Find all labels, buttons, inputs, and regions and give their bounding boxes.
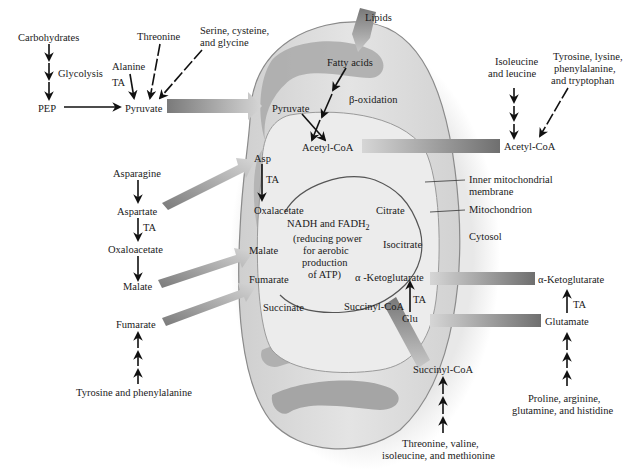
label-isocitrate: Isocitrate: [383, 239, 422, 250]
label-citrate: Citrate: [376, 205, 405, 216]
pyruvate-transport-arrow: [167, 92, 262, 120]
label-asp: Asp: [254, 153, 271, 164]
label-acetyl-coa-matrix: Acetyl-CoA: [302, 142, 354, 153]
label-cytosol: Cytosol: [469, 231, 502, 242]
label-succinyl-coa-matrix: Succinyl-CoA: [344, 301, 404, 312]
label-threonine: Threonine: [137, 31, 180, 42]
label-for-aerobic: for aerobic: [303, 245, 349, 256]
label-glutamate: Glutamate: [545, 316, 589, 327]
label-oxaloacetate: Oxaloacetate: [108, 244, 163, 255]
label-threonine-valine-1: Threonine, valine,: [402, 438, 479, 449]
serine-arrow: [160, 50, 202, 98]
label-glycolysis: Glycolysis: [58, 68, 103, 79]
metabolism-diagram: Carbohydrates Glycolysis PEP Alanine TA …: [0, 0, 637, 474]
alpha-ketoglutarate-transport-bar: [430, 272, 535, 285]
threonine-arrow: [150, 44, 160, 98]
label-pyruvate-cytosol: Pyruvate: [125, 103, 163, 114]
label-inner-membrane-1: Inner mitochondrial: [469, 174, 553, 185]
label-aspartate: Aspartate: [117, 206, 158, 217]
label-inner-membrane-2: membrane: [469, 186, 514, 197]
label-of-atp: of ATP): [308, 269, 341, 281]
label-tyrosine-1: Tyrosine, lysine,: [553, 51, 623, 62]
label-alpha-kg-matrix: α -Ketoglutarate: [355, 272, 424, 283]
label-ta-asp: TA: [266, 174, 280, 185]
label-proline-2: glutamine, and histidine: [512, 405, 614, 416]
label-serine-2: and glycine: [200, 37, 249, 48]
glutamate-transport-bar: [430, 314, 541, 327]
label-tyrosine-phenylalanine: Tyrosine and phenylalanine: [76, 387, 192, 398]
label-lipids: Lipids: [365, 12, 392, 23]
label-oxalacetate: Oxalacetate: [254, 205, 304, 216]
label-isoleucine-1: Isoleucine: [495, 56, 538, 67]
label-fatty-acids: Fatty acids: [327, 57, 373, 68]
label-tyrosine-3: and tryptophan: [551, 75, 615, 86]
label-asparagine: Asparagine: [113, 168, 161, 179]
label-mitochondrion: Mitochondrion: [469, 204, 533, 215]
tyrosine-arrow: [540, 88, 568, 136]
label-ta-glu: TA: [413, 294, 427, 305]
label-ta-glutamate: TA: [573, 299, 587, 310]
label-ta-alanine: TA: [112, 77, 126, 88]
label-threonine-valine-2: isoleucine, and methionine: [382, 450, 495, 461]
label-pyruvate-matrix: Pyruvate: [272, 103, 310, 114]
label-carbohydrates: Carbohydrates: [18, 32, 79, 43]
label-succinate: Succinate: [263, 302, 304, 313]
label-ta-aspartate: TA: [143, 222, 157, 233]
label-fumarate-matrix: Fumarate: [249, 274, 289, 285]
acetyl-coa-transport-bar: [362, 139, 500, 153]
label-pep: PEP: [38, 103, 56, 114]
label-alpha-kg-cytosol: α-Ketoglutarate: [538, 274, 604, 285]
label-production: production: [302, 257, 348, 268]
label-beta-oxidation: β-oxidation: [349, 94, 398, 105]
label-succinyl-coa-cytosol: Succinyl-CoA: [413, 364, 473, 375]
label-reducing-power: (reducing power: [293, 233, 363, 245]
label-serine-1: Serine, cysteine,: [200, 25, 269, 36]
label-fumarate: Fumarate: [116, 319, 156, 330]
label-tyrosine-2: phenylalanine,: [554, 63, 616, 74]
alanine-arrow: [130, 74, 134, 98]
label-isoleucine-2: and leucine: [488, 68, 536, 79]
label-acetyl-coa-cytosol: Acetyl-CoA: [504, 141, 556, 152]
label-proline-1: Proline, arginine,: [528, 393, 600, 404]
label-malate-matrix: Malate: [249, 245, 278, 256]
label-malate: Malate: [123, 281, 152, 292]
label-glu: Glu: [402, 313, 419, 324]
label-alanine: Alanine: [112, 61, 146, 72]
